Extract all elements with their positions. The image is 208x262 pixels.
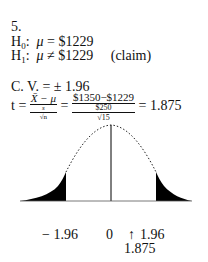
up-arrow-icon: ↑ bbox=[128, 227, 135, 242]
right-rejection-region bbox=[156, 172, 192, 201]
normal-distribution-curve bbox=[0, 0, 208, 262]
left-rejection-region bbox=[20, 172, 66, 201]
right-critical-label: 1.96 bbox=[140, 227, 165, 242]
left-critical-label: − 1.96 bbox=[42, 227, 78, 242]
test-value-label: 1.875 bbox=[124, 241, 156, 256]
center-label: 0 bbox=[106, 227, 113, 242]
